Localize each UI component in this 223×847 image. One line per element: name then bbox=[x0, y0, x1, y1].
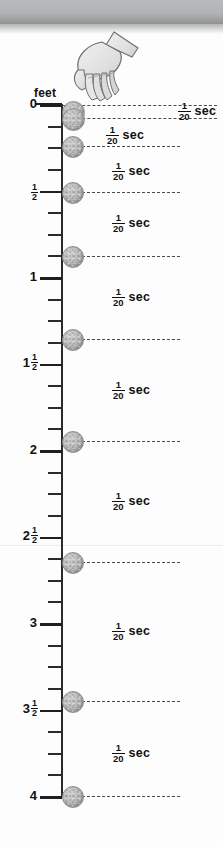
ruler-tick-major bbox=[40, 450, 62, 453]
interval-label-1-20-sec: 120sec bbox=[112, 621, 150, 641]
fraction-denominator: 20 bbox=[106, 135, 119, 146]
fraction-numerator: 1 bbox=[115, 621, 122, 631]
fraction-denominator: 2 bbox=[31, 362, 38, 372]
interval-unit-label: sec bbox=[123, 128, 144, 142]
axis-tick-label-4: 4 bbox=[30, 788, 38, 803]
ruler-tick-minor bbox=[48, 753, 62, 755]
label-integer: 1 bbox=[23, 356, 30, 369]
fraction-denominator: 20 bbox=[112, 501, 125, 512]
interval-label-1-20-sec: 120sec bbox=[112, 491, 150, 511]
ruler-tick-minor bbox=[48, 169, 62, 171]
ruler-tick-major bbox=[40, 710, 62, 713]
ruler-tick-minor bbox=[48, 774, 62, 776]
ball-position-marker bbox=[62, 246, 84, 268]
fraction: 12 bbox=[31, 526, 38, 545]
fraction-numerator: 1 bbox=[115, 491, 122, 501]
ruler-tick-minor bbox=[48, 515, 62, 517]
axis-tick-label-3-1-2: 312 bbox=[23, 699, 38, 718]
ruler-tick-minor bbox=[48, 342, 62, 344]
ball-position-marker bbox=[62, 182, 84, 204]
ruler-tick-minor bbox=[48, 558, 62, 560]
interval-label-1-20-sec: 120sec bbox=[112, 161, 150, 181]
interval-label-1-20-sec: 120sec bbox=[112, 287, 150, 307]
fraction-denominator: 2 bbox=[31, 708, 38, 718]
label-integer: 3 bbox=[30, 616, 37, 629]
fraction-numerator: 1 bbox=[115, 380, 122, 390]
ball-position-marker bbox=[62, 691, 84, 713]
ruler-tick-minor bbox=[48, 645, 62, 647]
ruler-tick-minor bbox=[48, 731, 62, 733]
label-integer: 4 bbox=[30, 789, 37, 802]
interval-unit-label: sec bbox=[129, 383, 150, 397]
fraction-numerator: 1 bbox=[115, 161, 122, 171]
fraction: 12 bbox=[31, 699, 38, 718]
interval-label-1-20-sec: 120sec bbox=[112, 213, 150, 233]
interval-unit-label: sec bbox=[129, 164, 150, 178]
axis-tick-label-1-2: 12 bbox=[31, 179, 38, 202]
axis-tick-label-0: 0 bbox=[30, 96, 38, 111]
fraction: 120 bbox=[112, 743, 125, 763]
fraction-denominator: 20 bbox=[112, 297, 125, 308]
fraction-denominator: 20 bbox=[112, 753, 125, 764]
fraction: 120 bbox=[106, 125, 119, 145]
ball-position-marker bbox=[62, 431, 84, 453]
fraction-numerator: 1 bbox=[31, 183, 38, 192]
ruler-tick-minor bbox=[48, 212, 62, 214]
interval-unit-label: sec bbox=[129, 624, 150, 638]
fraction-numerator: 1 bbox=[31, 526, 38, 535]
label-integer: 2 bbox=[23, 529, 30, 542]
ball-position-marker bbox=[62, 136, 84, 158]
fraction: 120 bbox=[112, 621, 125, 641]
fraction-numerator: 1 bbox=[181, 101, 188, 111]
falling-ball-strobe-figure: feet 0121112221233124 120sec120sec120sec… bbox=[0, 0, 223, 847]
interval-unit-label: sec bbox=[129, 494, 150, 508]
ruler-tick-major bbox=[40, 796, 62, 799]
ruler-tick-minor bbox=[48, 320, 62, 322]
fraction: 12 bbox=[31, 183, 38, 202]
interval-unit-label: sec bbox=[195, 104, 216, 118]
interval-unit-label: sec bbox=[129, 216, 150, 230]
ruler-tick-major bbox=[40, 364, 62, 367]
ball-position-marker bbox=[62, 329, 84, 351]
axis-tick-label-2: 2 bbox=[30, 442, 38, 457]
ruler-tick-major bbox=[40, 623, 62, 626]
fraction-denominator: 20 bbox=[112, 171, 125, 182]
ruler-tick-minor bbox=[48, 407, 62, 409]
fraction: 120 bbox=[112, 380, 125, 400]
interval-label-1-20-sec: 120sec bbox=[106, 125, 144, 145]
fraction: 120 bbox=[112, 491, 125, 511]
ruler-tick-minor bbox=[48, 126, 62, 128]
interval-unit-label: sec bbox=[129, 746, 150, 760]
ball-position-marker bbox=[62, 552, 84, 574]
ruler-tick-minor bbox=[48, 688, 62, 690]
fraction: 120 bbox=[178, 101, 191, 121]
ruler-tick-major bbox=[40, 277, 62, 280]
ruler-tick-minor bbox=[48, 428, 62, 430]
fraction: 120 bbox=[112, 213, 125, 233]
ruler-tick-minor bbox=[48, 234, 62, 236]
fraction-denominator: 20 bbox=[112, 631, 125, 642]
ruler-tick-minor bbox=[48, 472, 62, 474]
ball-position-marker bbox=[62, 786, 84, 808]
fraction: 120 bbox=[112, 161, 125, 181]
fraction-denominator: 20 bbox=[112, 223, 125, 234]
interval-label-1-20-sec: 120sec bbox=[112, 380, 150, 400]
fraction: 120 bbox=[112, 287, 125, 307]
axis-tick-label-2-1-2: 212 bbox=[23, 526, 38, 545]
label-integer: 3 bbox=[23, 702, 30, 715]
ruler-tick-minor bbox=[48, 493, 62, 495]
axis-tick-label-1-1-2: 112 bbox=[23, 353, 38, 372]
ruler-tick-major bbox=[40, 104, 62, 107]
interval-label-1-20-sec: 120sec bbox=[112, 743, 150, 763]
interval-label-1-20-sec: 120sec bbox=[178, 101, 216, 121]
fraction-denominator: 2 bbox=[31, 535, 38, 545]
fraction-numerator: 1 bbox=[109, 125, 116, 135]
label-integer: 2 bbox=[30, 443, 37, 456]
page-scan-hairline bbox=[0, 545, 223, 546]
fraction-denominator: 2 bbox=[31, 192, 38, 202]
label-integer: 1 bbox=[30, 270, 37, 283]
ruler-tick-minor bbox=[48, 299, 62, 301]
axis-tick-label-3: 3 bbox=[30, 615, 38, 630]
label-integer: 0 bbox=[30, 97, 37, 110]
ruler-tick-minor bbox=[48, 385, 62, 387]
